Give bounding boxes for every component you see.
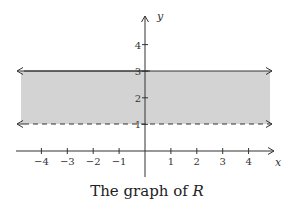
x-tick-label: 3 [220, 156, 226, 167]
region-graph: −4−3−2−11234 1234 x y [0, 0, 294, 208]
x-tick-label: −1 [112, 156, 127, 167]
x-tick-label: 4 [245, 156, 251, 167]
x-tick-label: −4 [34, 156, 49, 167]
graph-caption: The graph of R [0, 182, 294, 200]
y-axis-label: y [156, 10, 164, 23]
y-tick-label: 3 [135, 66, 141, 77]
x-axis-label: x [275, 156, 282, 169]
x-tick-label: 2 [194, 156, 200, 167]
caption-prefix: The graph of [90, 182, 192, 200]
x-tick-label: −2 [86, 156, 101, 167]
y-tick-label: 1 [135, 119, 141, 130]
y-tick-label: 2 [135, 93, 141, 104]
caption-variable: R [193, 182, 204, 200]
x-tick-label: 1 [168, 156, 174, 167]
y-tick-label: 4 [135, 40, 141, 51]
x-tick-label: −3 [60, 156, 75, 167]
